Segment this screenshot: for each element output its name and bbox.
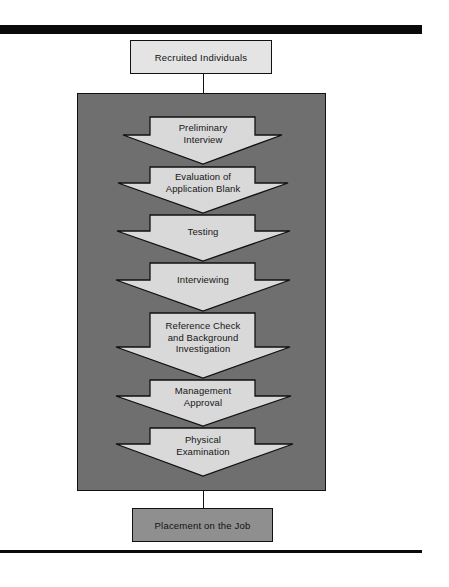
step-3-testing: Testing — [148, 226, 258, 238]
bottom-rule — [0, 550, 422, 553]
end-node-placement-on-the-job: Placement on the Job — [132, 508, 273, 542]
step-1-preliminary-interview: Preliminary Interview — [148, 122, 258, 145]
arrow-shape-step-4 — [116, 263, 290, 311]
step-arrows — [0, 0, 449, 587]
step-4-interviewing: Interviewing — [148, 274, 258, 286]
step-6-management-approval: Management Approval — [148, 385, 258, 408]
arrow-shape-step-3 — [117, 215, 290, 261]
end-node-label: Placement on the Job — [155, 520, 251, 531]
step-7-physical-examination: Physical Examination — [148, 434, 258, 457]
connector-panel-to-end — [203, 490, 205, 509]
step-5-reference-check: Reference Check and Background Investiga… — [148, 320, 258, 355]
step-2-evaluation-of-application-blank: Evaluation of Application Blank — [148, 171, 258, 194]
